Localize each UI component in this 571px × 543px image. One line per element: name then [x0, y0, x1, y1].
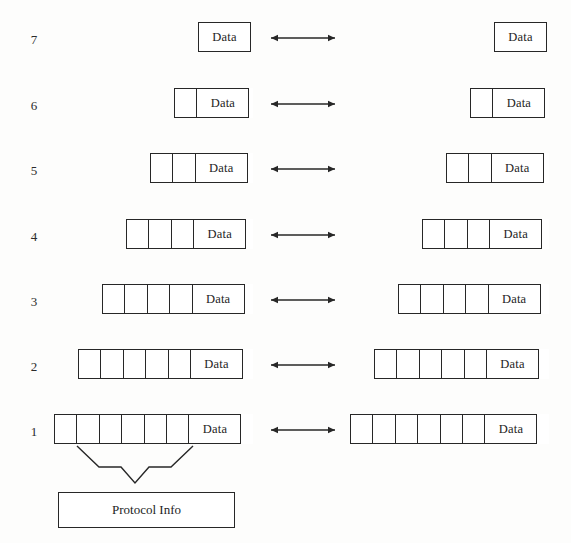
data-cell: Data: [188, 414, 241, 444]
protocol-header-cell: [148, 219, 172, 249]
protocol-arrow-layer-7: [269, 30, 337, 42]
protocol-header-cell: [166, 414, 190, 444]
protocol-arrow-layer-3: [269, 292, 337, 304]
protocol-arrow-layer-2: [269, 357, 337, 369]
protocol-header-cell: [121, 414, 145, 444]
protocol-header-cell: [446, 153, 470, 183]
data-cell: Data: [484, 414, 537, 444]
protocol-header-cell: [470, 88, 494, 118]
pdu-right-layer-3: Data: [398, 284, 549, 314]
data-cell: Data: [198, 22, 251, 52]
protocol-header-cell: [443, 284, 467, 314]
protocol-header-cell: [78, 349, 102, 379]
pdu-right-layer-5: Data: [446, 153, 549, 183]
protocol-header-cell: [123, 349, 147, 379]
pdu-right-layer-1: Data: [350, 414, 549, 444]
pdu-right-layer-7: Data: [494, 22, 547, 52]
protocol-header-cell: [420, 284, 444, 314]
layer-number-1: 1: [26, 425, 42, 438]
protocol-header-cell: [168, 349, 192, 379]
protocol-info-box: Protocol Info: [58, 492, 235, 528]
pdu-left-layer-2: Data: [78, 349, 253, 379]
protocol-header-cell: [150, 153, 174, 183]
protocol-header-cell: [441, 349, 465, 379]
protocol-header-cell: [467, 219, 491, 249]
protocol-header-cell: [462, 414, 486, 444]
pdu-right-layer-4: Data: [422, 219, 549, 249]
pdu-left-layer-1: Data: [54, 414, 253, 444]
pdu-right-layer-6: Data: [470, 88, 549, 118]
pdu-left-layer-7: Data: [198, 22, 251, 52]
protocol-header-cell: [440, 414, 464, 444]
protocol-info-label: Protocol Info: [112, 502, 181, 518]
data-cell: Data: [492, 88, 545, 118]
protocol-header-cell: [100, 349, 124, 379]
protocol-header-cell: [464, 349, 488, 379]
protocol-header-cell: [126, 219, 150, 249]
data-cell: Data: [489, 219, 542, 249]
data-cell: Data: [195, 153, 248, 183]
protocol-header-cell: [350, 414, 374, 444]
protocol-header-cell: [99, 414, 123, 444]
pdu-right-layer-2: Data: [374, 349, 549, 379]
protocol-info-brace: [73, 442, 197, 487]
data-cell: Data: [488, 284, 541, 314]
protocol-header-cell: [124, 284, 148, 314]
protocol-header-cell: [144, 414, 168, 444]
protocol-header-cell: [444, 219, 468, 249]
protocol-header-cell: [396, 349, 420, 379]
protocol-header-cell: [398, 284, 422, 314]
data-cell: Data: [196, 88, 249, 118]
protocol-header-cell: [76, 414, 100, 444]
protocol-header-cell: [174, 88, 198, 118]
encapsulation-diagram: 7 6 5 4 3 2 1 Data Data Data Data Data D…: [0, 0, 571, 543]
protocol-header-cell: [419, 349, 443, 379]
protocol-header-cell: [372, 414, 396, 444]
layer-number-4: 4: [26, 230, 42, 243]
protocol-header-cell: [465, 284, 489, 314]
protocol-arrow-layer-4: [269, 227, 337, 239]
protocol-header-cell: [468, 153, 492, 183]
protocol-header-cell: [147, 284, 171, 314]
protocol-arrow-layer-6: [269, 96, 337, 108]
data-cell: Data: [193, 219, 246, 249]
data-cell: Data: [486, 349, 539, 379]
layer-number-2: 2: [26, 360, 42, 373]
protocol-header-cell: [422, 219, 446, 249]
protocol-header-cell: [54, 414, 78, 444]
pdu-left-layer-6: Data: [174, 88, 253, 118]
protocol-header-cell: [395, 414, 419, 444]
protocol-header-cell: [417, 414, 441, 444]
protocol-header-cell: [374, 349, 398, 379]
protocol-header-cell: [102, 284, 126, 314]
layer-number-6: 6: [26, 99, 42, 112]
protocol-header-cell: [169, 284, 193, 314]
layer-number-5: 5: [26, 164, 42, 177]
data-cell: Data: [192, 284, 245, 314]
pdu-left-layer-5: Data: [150, 153, 253, 183]
data-cell: Data: [494, 22, 547, 52]
pdu-left-layer-4: Data: [126, 219, 253, 249]
layer-number-7: 7: [26, 33, 42, 46]
protocol-header-cell: [171, 219, 195, 249]
protocol-header-cell: [145, 349, 169, 379]
data-cell: Data: [491, 153, 544, 183]
data-cell: Data: [190, 349, 243, 379]
layer-number-3: 3: [26, 295, 42, 308]
pdu-left-layer-3: Data: [102, 284, 253, 314]
protocol-arrow-layer-1: [269, 422, 337, 434]
protocol-arrow-layer-5: [269, 161, 337, 173]
protocol-header-cell: [172, 153, 196, 183]
